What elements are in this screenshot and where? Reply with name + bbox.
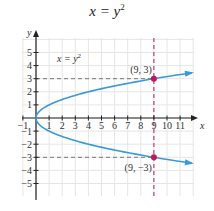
x-tick-label: 11 bbox=[175, 120, 185, 131]
curve-arrow-icon bbox=[185, 159, 194, 165]
y-tick-label: 5 bbox=[27, 47, 32, 58]
plot-area: −11234567891011−5−4−3−2−112345xy(9, 3)(9… bbox=[0, 0, 214, 211]
y-axis-label: y bbox=[26, 27, 32, 38]
y-tick-label: −4 bbox=[21, 165, 32, 176]
x-tick-label: 5 bbox=[99, 120, 104, 131]
x-tick-label: 3 bbox=[73, 120, 78, 131]
x-tick-label: 7 bbox=[125, 120, 130, 131]
y-tick-label: 3 bbox=[27, 73, 32, 84]
x-tick-label: 6 bbox=[112, 120, 117, 131]
point-label-top: (9, 3) bbox=[130, 64, 152, 76]
y-tick-label: −3 bbox=[21, 152, 32, 163]
y-tick-label: −5 bbox=[21, 178, 32, 189]
x-axis-arrow-icon bbox=[191, 115, 198, 121]
point-marker bbox=[151, 76, 157, 82]
point-marker bbox=[151, 154, 157, 160]
point-label-bottom: (9, −3) bbox=[125, 162, 152, 174]
curve-label: x = y2 bbox=[56, 52, 82, 64]
x-tick-label: 10 bbox=[162, 120, 172, 131]
y-tick-label: 1 bbox=[27, 99, 32, 110]
x-axis-label: x bbox=[199, 120, 205, 131]
y-tick-label: −2 bbox=[21, 139, 32, 150]
y-axis-arrow-icon bbox=[33, 30, 39, 37]
x-tick-label: 2 bbox=[60, 120, 65, 131]
x-tick-label: 8 bbox=[138, 120, 143, 131]
y-tick-label: 4 bbox=[27, 60, 32, 71]
x-tick-label: 4 bbox=[86, 120, 91, 131]
x-tick-label: 9 bbox=[151, 120, 156, 131]
y-tick-label: −1 bbox=[21, 126, 32, 137]
curve-arrow-icon bbox=[185, 71, 194, 77]
y-tick-label: 2 bbox=[27, 86, 32, 97]
